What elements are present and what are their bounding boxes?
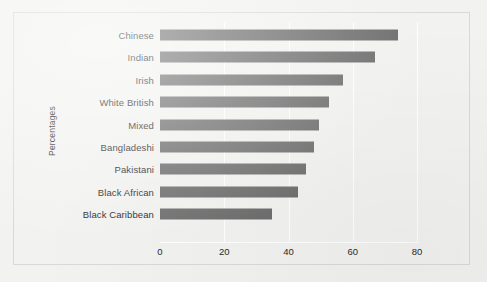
bar xyxy=(160,97,329,108)
category-label: Irish xyxy=(136,74,154,85)
category-label: Black African xyxy=(98,186,154,197)
y-axis-title: Percentages xyxy=(47,106,57,156)
horizontal-bar-chart: Percentages ChineseIndianIrishWhite Brit… xyxy=(0,0,487,282)
bar xyxy=(160,119,319,130)
bar xyxy=(160,74,343,85)
category-label-column: ChineseIndianIrishWhite BritishMixedBang… xyxy=(60,0,154,282)
x-tick-label: 0 xyxy=(157,246,162,257)
bar xyxy=(160,30,398,41)
chart-page: Percentages ChineseIndianIrishWhite Brit… xyxy=(0,0,487,282)
category-label: Black Caribbean xyxy=(83,209,154,220)
bar xyxy=(160,164,306,175)
plot-area xyxy=(160,22,417,242)
x-tick-label: 20 xyxy=(219,246,230,257)
category-label: Pakistani xyxy=(115,164,154,175)
category-label: Indian xyxy=(128,52,154,63)
bar xyxy=(160,186,298,197)
x-axis-line xyxy=(160,242,418,243)
category-label: Chinese xyxy=(118,30,154,41)
x-tick-label: 80 xyxy=(412,246,423,257)
category-label: Bangladeshi xyxy=(101,142,154,153)
category-label: Mixed xyxy=(128,119,154,130)
bar xyxy=(160,142,314,153)
category-label: White British xyxy=(99,97,154,108)
bar xyxy=(160,52,375,63)
gridline xyxy=(417,22,418,242)
bar xyxy=(160,209,272,220)
x-tick-label: 60 xyxy=(347,246,358,257)
x-tick-label: 40 xyxy=(283,246,294,257)
